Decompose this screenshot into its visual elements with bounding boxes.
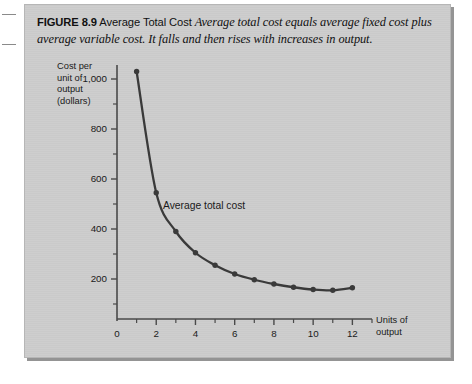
y-tick-label: 800 [57, 123, 107, 134]
y-axis-title-line-4: (dollars) [57, 96, 119, 108]
average-total-cost-curve [137, 72, 353, 291]
y-tick-label: 200 [57, 273, 107, 284]
data-point-marker [173, 229, 178, 234]
data-point-marker [212, 263, 217, 268]
x-tick-label: 2 [144, 328, 168, 339]
data-point-marker [271, 281, 276, 286]
page-margin-rule-bottom [2, 44, 16, 45]
page-margin-rule-top [2, 14, 16, 15]
series-annotation-average-total-cost: Average total cost [163, 200, 245, 211]
data-point-marker [310, 287, 315, 292]
y-axis-title: Cost per unit of output (dollars) [57, 61, 119, 107]
x-tick-label: 4 [183, 328, 207, 339]
x-axis-title: Units of output [376, 315, 438, 338]
x-axis-title-line-1: Units of [376, 315, 438, 327]
data-point-marker [330, 288, 335, 293]
data-point-marker [291, 285, 296, 290]
data-point-marker [154, 190, 159, 195]
x-tick-label: 8 [262, 328, 286, 339]
data-point-marker [350, 285, 355, 290]
x-axis-title-line-2: output [376, 327, 438, 339]
data-point-marker [252, 277, 257, 282]
y-tick-label: 400 [57, 223, 107, 234]
y-tick-label: 1,000 [57, 73, 107, 84]
chart-plot-area: Cost per unit of output (dollars) Units … [25, 5, 452, 359]
figure-panel: FIGURE 8.9 Average Total Cost Average to… [24, 4, 451, 358]
y-axis-title-line-1: Cost per [57, 61, 119, 73]
chart-series [134, 69, 355, 293]
x-tick-label: 6 [223, 328, 247, 339]
y-axis-title-line-3: output [57, 84, 119, 96]
y-tick-label: 600 [57, 173, 107, 184]
x-tick-label: 10 [301, 328, 325, 339]
data-point-marker [232, 271, 237, 276]
data-point-marker [193, 250, 198, 255]
x-tick-label: 12 [340, 328, 364, 339]
x-tick-label: 0 [105, 328, 129, 339]
data-point-marker [134, 69, 139, 74]
